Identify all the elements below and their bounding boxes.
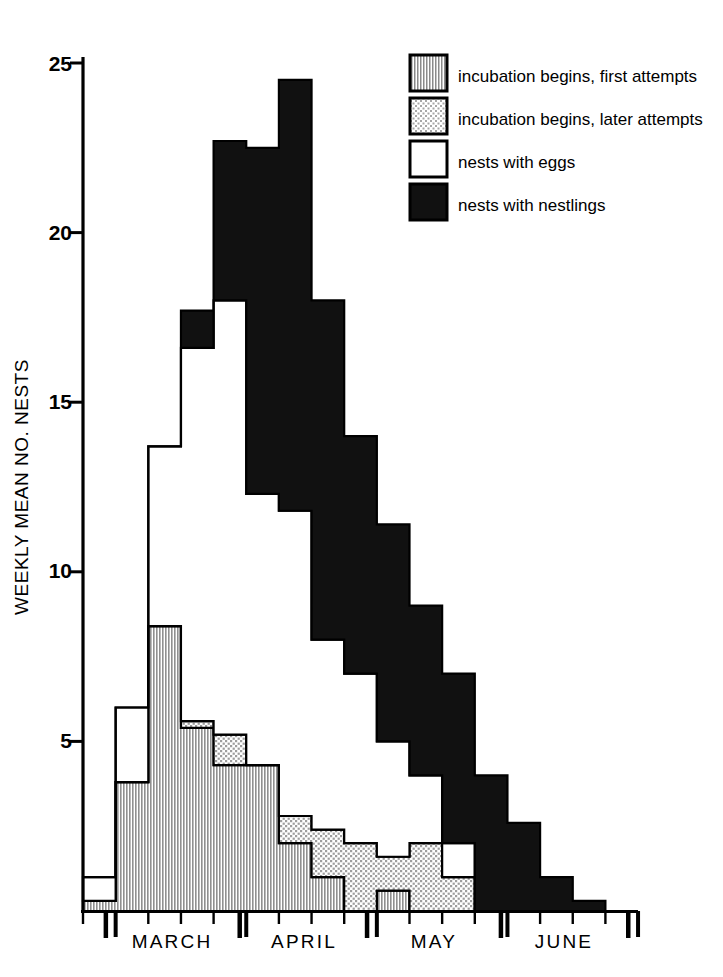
chart-svg: 25 20 15 10 5 WEEKLY MEAN NO. NESTS MARC… bbox=[0, 0, 723, 977]
dotted-swatch bbox=[410, 98, 447, 134]
y-tick-label-25: 25 bbox=[49, 52, 73, 75]
x-axis-month-june: JUNE bbox=[535, 931, 593, 952]
vertical-hatch-swatch bbox=[410, 55, 447, 91]
legend-item-later-attempts[interactable]: incubation begins, later attempts bbox=[410, 98, 703, 134]
nest-phenology-chart: 25 20 15 10 5 WEEKLY MEAN NO. NESTS MARC… bbox=[0, 0, 723, 977]
black-swatch bbox=[410, 184, 447, 220]
legend-item-eggs[interactable]: nests with eggs bbox=[410, 141, 575, 177]
x-axis-month-march: MARCH bbox=[132, 931, 213, 952]
legend: incubation begins, first attempts incuba… bbox=[410, 55, 703, 220]
y-tick-label-5: 5 bbox=[60, 729, 72, 752]
y-tick-label-15: 15 bbox=[49, 390, 73, 413]
y-tick-label-20: 20 bbox=[49, 221, 72, 244]
legend-item-first-attempts[interactable]: incubation begins, first attempts bbox=[410, 55, 697, 91]
legend-label-first-attempts: incubation begins, first attempts bbox=[458, 67, 697, 86]
legend-label-eggs: nests with eggs bbox=[458, 153, 575, 172]
x-axis-month-may: MAY bbox=[411, 931, 457, 952]
y-tick-label-10: 10 bbox=[49, 559, 72, 582]
legend-label-nestlings: nests with nestlings bbox=[458, 196, 605, 215]
legend-item-nestlings[interactable]: nests with nestlings bbox=[410, 184, 605, 220]
white-swatch bbox=[410, 141, 447, 177]
y-axis-title: WEEKLY MEAN NO. NESTS bbox=[11, 359, 32, 615]
x-axis-month-april: APRIL bbox=[271, 931, 337, 952]
legend-label-later-attempts: incubation begins, later attempts bbox=[458, 110, 703, 129]
